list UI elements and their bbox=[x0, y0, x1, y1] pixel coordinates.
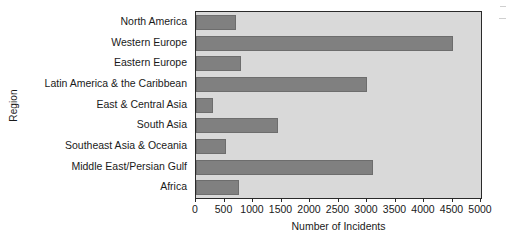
x-tick-label-1500: 1500 bbox=[269, 203, 292, 216]
x-tick-mark bbox=[452, 198, 453, 202]
x-tick-mark bbox=[224, 198, 225, 202]
y-tick-label-east-central-asia: East & Central Asia bbox=[22, 94, 192, 115]
x-tick-mark bbox=[423, 198, 424, 202]
x-tick-mark bbox=[195, 198, 196, 202]
x-tick-mark bbox=[395, 198, 396, 202]
bar-slot bbox=[196, 33, 481, 54]
x-tick-label-2500: 2500 bbox=[326, 203, 349, 216]
bar-southeast-asia-oceania bbox=[196, 139, 226, 154]
bar-slot bbox=[196, 95, 481, 116]
bar-slot bbox=[196, 12, 481, 33]
x-tick-mark bbox=[309, 198, 310, 202]
x-tick-label-4000: 4000 bbox=[411, 203, 434, 216]
x-tick-label-2000: 2000 bbox=[297, 203, 320, 216]
bar-africa bbox=[196, 180, 239, 195]
bar-slot bbox=[196, 177, 481, 198]
bar-slot bbox=[196, 115, 481, 136]
bars-layer bbox=[196, 12, 481, 198]
bar-middle-east-persian-gulf bbox=[196, 160, 373, 175]
x-tick-label-500: 500 bbox=[215, 203, 233, 216]
x-tick-label-0: 0 bbox=[192, 203, 198, 216]
x-tick-mark bbox=[480, 198, 481, 202]
y-tick-label-north-america: North America bbox=[22, 11, 192, 32]
x-tick-mark bbox=[281, 198, 282, 202]
plot-area bbox=[195, 11, 482, 199]
y-axis-tick-labels: North America Western Europe Eastern Eur… bbox=[22, 11, 192, 197]
x-tick-label-3500: 3500 bbox=[383, 203, 406, 216]
x-tick-mark bbox=[338, 198, 339, 202]
y-tick-label-western-europe: Western Europe bbox=[22, 32, 192, 53]
scan-artifact-mark bbox=[499, 18, 506, 19]
bar-latin-america-the-caribbean bbox=[196, 77, 367, 92]
bar-south-asia bbox=[196, 118, 278, 133]
bar-chart-figure: Region North America Western Europe East… bbox=[0, 0, 510, 243]
x-tick-label-3000: 3000 bbox=[354, 203, 377, 216]
y-tick-label-africa: Africa bbox=[22, 176, 192, 197]
x-tick-label-5000: 5000 bbox=[468, 203, 491, 216]
x-axis-tick-labels: 0500100015002000250030003500400045005000 bbox=[195, 203, 482, 217]
bar-slot bbox=[196, 53, 481, 74]
bar-east-central-asia bbox=[196, 98, 213, 113]
x-axis-title: Number of Incidents bbox=[195, 220, 482, 232]
y-axis-title: Region bbox=[4, 0, 22, 210]
scan-artifact-mark bbox=[500, 6, 506, 7]
y-tick-label-latin-america-caribbean: Latin America & the Caribbean bbox=[22, 73, 192, 94]
bar-western-europe bbox=[196, 36, 453, 51]
bar-north-america bbox=[196, 15, 236, 30]
bar-slot bbox=[196, 157, 481, 178]
y-tick-label-southeast-asia-oceania: Southeast Asia & Oceania bbox=[22, 135, 192, 156]
y-tick-label-middle-east-persian-gulf: Middle East/Persian Gulf bbox=[22, 156, 192, 177]
bar-slot bbox=[196, 136, 481, 157]
y-tick-label-eastern-europe: Eastern Europe bbox=[22, 52, 192, 73]
x-tick-label-1000: 1000 bbox=[240, 203, 263, 216]
x-tick-mark bbox=[252, 198, 253, 202]
y-axis-title-text: Region bbox=[8, 89, 19, 121]
bar-eastern-europe bbox=[196, 56, 241, 71]
y-tick-label-south-asia: South Asia bbox=[22, 114, 192, 135]
x-tick-mark bbox=[366, 198, 367, 202]
x-tick-label-4500: 4500 bbox=[440, 203, 463, 216]
bar-slot bbox=[196, 74, 481, 95]
